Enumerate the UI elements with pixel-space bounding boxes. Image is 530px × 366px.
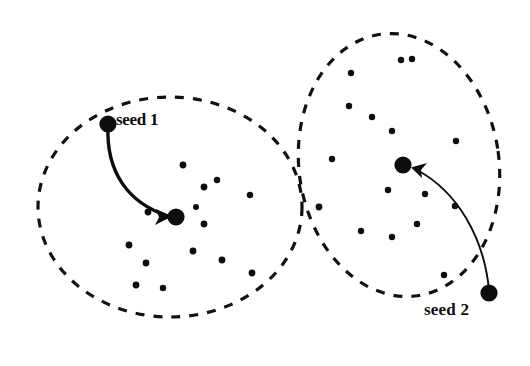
seed-2-marker[interactable] (480, 284, 497, 301)
data-point (389, 234, 395, 240)
data-point (201, 221, 208, 228)
data-point (409, 56, 415, 62)
data-point (346, 103, 352, 109)
data-point (369, 114, 375, 120)
data-point (193, 204, 199, 210)
data-point (190, 248, 197, 255)
data-point (358, 228, 364, 234)
seed-1-marker[interactable] (99, 115, 116, 132)
data-point (180, 162, 187, 169)
seed-2-label: seed 2 (424, 300, 469, 319)
data-point (249, 270, 256, 277)
data-point (143, 260, 150, 267)
data-point (453, 138, 459, 144)
data-point (316, 204, 323, 211)
cluster-diagram-svg: seed 1 seed 2 (0, 0, 530, 366)
data-point (329, 156, 335, 162)
cluster-2-centroid-marker[interactable] (394, 156, 411, 173)
data-point (247, 192, 253, 198)
figure-canvas: seed 1 seed 2 (0, 0, 530, 366)
data-point (385, 187, 391, 193)
cluster-1-centroid-marker[interactable] (167, 208, 184, 225)
data-point (422, 191, 428, 197)
data-point (126, 242, 133, 249)
data-point (414, 221, 420, 227)
data-point (441, 272, 447, 278)
data-point (389, 128, 395, 134)
data-point (160, 285, 166, 291)
data-point (214, 177, 220, 183)
data-point (398, 57, 404, 63)
data-point (201, 184, 208, 191)
data-point (348, 70, 354, 76)
data-point (219, 257, 226, 264)
seed-1-label: seed 1 (116, 110, 158, 129)
data-point (133, 282, 140, 289)
